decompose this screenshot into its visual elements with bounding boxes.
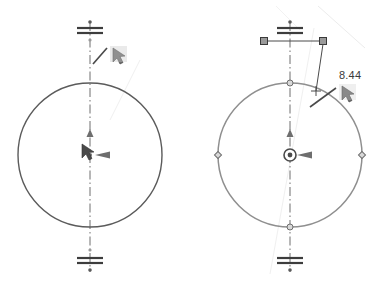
cursor-badge-backdrop — [339, 84, 356, 100]
cad-sketch-canvas: 8.44 — [0, 0, 381, 287]
quadrant-point-bottom[interactable] — [287, 224, 293, 230]
quadrant-point-top[interactable] — [287, 80, 293, 86]
sketch-viewport[interactable]: 8.44 — [0, 0, 381, 287]
smart-dimension-cursor[interactable] — [339, 84, 356, 102]
circle-center-point-marker[interactable] — [284, 149, 296, 161]
dimension-handle-right[interactable] — [320, 38, 327, 45]
dimension-value-label[interactable]: 8.44 — [339, 69, 361, 81]
cursor-badge-backdrop — [110, 46, 127, 62]
dimension-handle-left[interactable] — [261, 38, 268, 45]
